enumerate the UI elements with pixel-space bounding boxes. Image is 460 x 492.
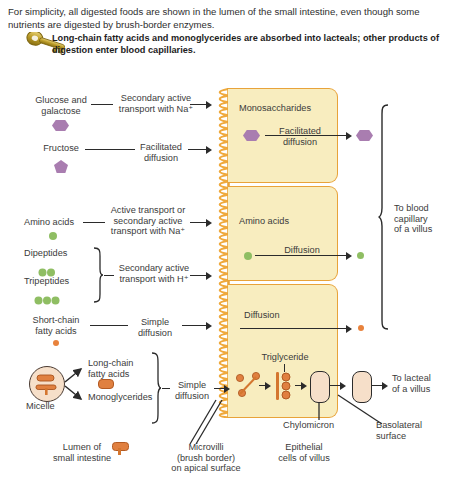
to-lacteal-label: To lacteal of a villus — [392, 373, 456, 394]
monosaccharide-exit-shape — [356, 130, 373, 141]
dipeptide-shape — [38, 263, 58, 272]
lumen-bottom-label: Lumen of small intestine — [30, 442, 134, 463]
cell-box-2-transport: Diffusion — [272, 245, 332, 256]
basolateral-surface-label: Basolateral surface — [376, 420, 450, 441]
lacteal-arrow — [382, 382, 388, 390]
triglyceride-molecule — [275, 370, 295, 402]
figure-canvas: For simplicity, all digested foods are s… — [0, 0, 460, 492]
glucose-mechanism-label: Secondary active transport with Na⁺ — [112, 93, 200, 114]
amino-acids-label: Amino acids — [24, 217, 86, 228]
glucose-arrow-head — [206, 101, 212, 109]
lipid-step-line-1 — [259, 385, 266, 386]
short-chain-fatty-acid-shape — [53, 340, 59, 346]
lipid-products-brace — [150, 352, 162, 424]
long-chain-fatty-acids-label: Long-chain fatty acids — [88, 358, 150, 379]
fructose-arrow-head — [206, 146, 212, 154]
lipid-step-line-3 — [330, 385, 340, 386]
scfa-connector-line — [90, 325, 128, 326]
short-chain-fatty-acid-exit-shape — [358, 325, 364, 331]
fructose-shape — [54, 160, 68, 173]
tripeptide-shape — [34, 291, 62, 300]
amino-arrow-head — [206, 219, 212, 227]
peptides-mechanism-label: Secondary active transport with H⁺ — [113, 263, 195, 284]
cell-box-3-transport: Diffusion — [244, 310, 314, 321]
cell-box-1-transport: Facilitated diffusion — [262, 126, 338, 147]
fructose-connector-line — [85, 149, 135, 150]
cell-box-2-title: Amino acids — [239, 216, 339, 227]
transport-line-2 — [255, 255, 346, 256]
transport-arrow-3 — [346, 325, 352, 333]
scfa-arrow-line — [182, 325, 208, 326]
chylomicron-label: Chylomicron — [283, 420, 357, 431]
fructose-arrow-line — [188, 149, 208, 150]
lipid-mechanism-label: Simple diffusion — [168, 380, 216, 401]
tripeptides-label: Tripeptides — [24, 276, 94, 287]
micelle-shape — [29, 366, 65, 402]
lipid-arrow-head — [224, 385, 230, 393]
peptides-brace — [92, 247, 104, 303]
micelle-split-arrows — [64, 364, 88, 406]
blood-capillary-brace — [378, 104, 392, 330]
amino-mechanism-label: Active transport or secondary active tra… — [103, 205, 193, 237]
key-note-text: Long-chain fatty acids and monoglyceride… — [52, 33, 448, 56]
scfa-mechanism-label: Simple diffusion — [126, 317, 184, 338]
transport-arrow-1 — [346, 132, 352, 140]
to-blood-capillary-label: To blood capillary of a villus — [394, 203, 456, 235]
intro-text: For simplicity, all digested foods are s… — [8, 6, 452, 31]
amino-acid-exit-shape — [357, 252, 364, 259]
amino-connector-line — [83, 222, 105, 223]
glucose-galactose-shape — [52, 120, 69, 131]
epithelial-cell-box-protein — [228, 186, 338, 281]
chylomicron-in-cell — [310, 371, 330, 403]
amino-acid-shape — [49, 232, 57, 240]
transport-line-1 — [265, 135, 346, 136]
glucose-connector-line — [91, 104, 113, 105]
amino-acid-shape-in-cell — [244, 252, 252, 260]
lipid-step-arrow-3 — [340, 382, 346, 390]
dipeptides-label: Dipeptides — [24, 248, 94, 259]
epithelial-cells-label: Epithelial cells of villus — [262, 442, 346, 463]
chylomicron-exited — [352, 371, 372, 403]
glucose-galactose-label: Glucose and galactose — [24, 95, 98, 116]
lipid-step-arrow-2 — [301, 382, 307, 390]
long-chain-fatty-acid-shape — [98, 379, 114, 389]
peptides-arrow-head — [206, 272, 212, 280]
microvilli-label: Microvilli (brush border) on apical surf… — [152, 442, 260, 474]
fructose-mechanism-label: Facilitated diffusion — [130, 142, 192, 163]
transport-arrow-2 — [346, 252, 352, 260]
scfa-arrow-head — [206, 322, 212, 330]
triglyceride-label: Triglyceride — [248, 352, 322, 363]
transport-line-3 — [240, 328, 346, 329]
cell-box-1-title: Monosaccharides — [239, 103, 339, 114]
lacteal-line — [372, 385, 382, 386]
short-chain-fatty-acids-label: Short-chain fatty acids — [18, 315, 94, 336]
